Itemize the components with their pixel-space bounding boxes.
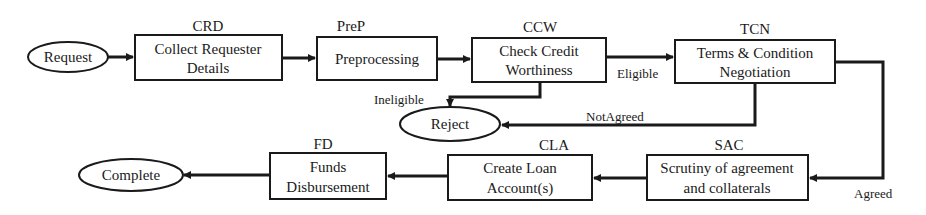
step-tcn-code: TCN	[740, 21, 770, 37]
step-ccw: CCW Check Credit Worthiness	[472, 19, 606, 82]
step-crd: CRD Collect Requester Details	[135, 18, 282, 80]
step-tcn-line2: Negotiation	[720, 64, 791, 80]
step-ccw-line1: Check Credit	[499, 43, 579, 59]
step-cla-line1: Create Loan	[483, 160, 557, 176]
edge-label-agreed: Agreed	[854, 186, 893, 201]
loan-process-diagram: Eligible Ineligible NotAgreed Agreed Req…	[0, 0, 926, 215]
step-prep: PreP Preprocessing	[317, 18, 437, 80]
edge-label-ineligible: Ineligible	[374, 92, 424, 107]
step-fd-line1: Funds	[310, 159, 347, 175]
step-prep-line1: Preprocessing	[335, 51, 420, 67]
terminal-reject-label: Reject	[431, 116, 470, 132]
step-cla: CLA Create Loan Account(s)	[448, 137, 592, 200]
step-crd-line1: Collect Requester	[154, 41, 261, 57]
step-fd-code: FD	[313, 136, 332, 152]
step-cla-line2: Account(s)	[487, 180, 554, 197]
step-tcn-line1: Terms & Condition	[697, 45, 814, 61]
terminal-complete-label: Complete	[102, 167, 161, 183]
step-crd-line2: Details	[187, 60, 230, 76]
edge-label-eligible: Eligible	[617, 66, 658, 81]
terminal-reject: Reject	[400, 107, 500, 141]
step-ccw-line2: Worthiness	[505, 62, 572, 78]
step-tcn: TCN Terms & Condition Negotiation	[675, 21, 835, 83]
step-crd-code: CRD	[193, 18, 224, 34]
step-sac-line2: and collaterals	[683, 180, 770, 196]
step-sac-line1: Scrutiny of agreement	[660, 160, 794, 176]
step-ccw-code: CCW	[523, 19, 558, 35]
terminal-request: Request	[28, 42, 108, 72]
edge-ccw-to-reject	[450, 82, 540, 106]
step-sac: SAC Scrutiny of agreement and collateral…	[647, 137, 808, 200]
step-sac-code: SAC	[714, 137, 743, 153]
step-fd: FD Funds Disbursement	[270, 136, 386, 199]
step-cla-code: CLA	[539, 137, 569, 153]
step-prep-code: PreP	[337, 18, 365, 34]
terminal-complete: Complete	[79, 159, 183, 191]
step-fd-line2: Disbursement	[286, 179, 370, 195]
edge-label-not-agreed: NotAgreed	[586, 109, 644, 124]
terminal-request-label: Request	[44, 49, 93, 65]
